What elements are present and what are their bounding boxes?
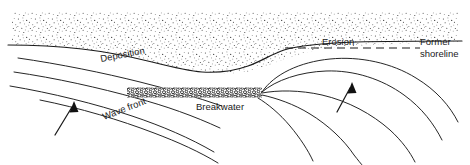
label-breakwater: Breakwater: [196, 101, 244, 112]
land-stipple-fill: [12, 12, 458, 74]
breakwater-structure: [127, 88, 262, 98]
breakwater-rubble-mound: [127, 88, 262, 98]
label-erosion: Erosion: [322, 36, 354, 47]
diagram-canvas: Deposition Erosion Former shoreline Brea…: [0, 0, 470, 165]
breakwater-diagram-figure: Deposition Erosion Former shoreline Brea…: [0, 0, 470, 165]
label-wave-front: Wave front: [101, 95, 148, 122]
land-region: [12, 12, 458, 74]
label-former-shoreline-line2: shoreline: [420, 48, 459, 59]
label-former-shoreline-line1: Former: [420, 36, 451, 47]
direction-arrow-right: [337, 82, 357, 112]
diffracted-wave-lines: [258, 58, 458, 165]
